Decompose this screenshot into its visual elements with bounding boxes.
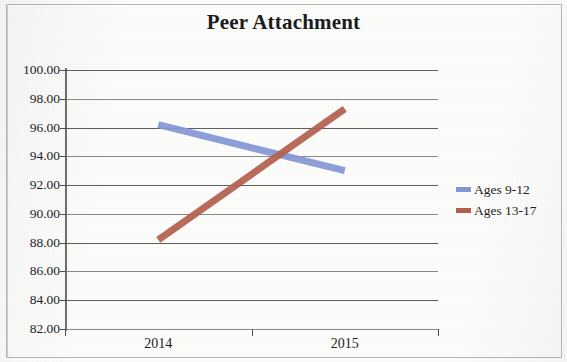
chart-title: Peer Attachment: [0, 10, 567, 35]
y-axis-tick-labels: 100.0098.0096.0094.0092.0090.0088.0086.0…: [0, 70, 60, 330]
x-axis-tick-label: 2015: [252, 336, 439, 352]
chart-figure: Peer Attachment 100.0098.0096.0094.0092.…: [0, 0, 567, 362]
x-axis-tick: [65, 329, 66, 336]
y-axis-tick-label: 82.00: [2, 322, 60, 335]
legend-item: Ages 9-12: [456, 180, 562, 199]
legend-item: Ages 13-17: [456, 201, 562, 220]
x-axis-tick-label: 2014: [65, 336, 252, 352]
legend-label: Ages 9-12: [474, 182, 530, 198]
y-axis-tick-label: 90.00: [2, 207, 60, 220]
y-axis-tick-label: 96.00: [2, 121, 60, 134]
legend-swatch-icon: [456, 187, 471, 192]
series-layer: [65, 70, 438, 329]
y-axis-tick-label: 86.00: [2, 264, 60, 277]
x-axis-tick: [252, 329, 253, 336]
y-axis-tick-label: 94.00: [2, 149, 60, 162]
y-axis-tick-label: 84.00: [2, 293, 60, 306]
y-axis-tick-label: 92.00: [2, 178, 60, 191]
y-axis-tick-label: 88.00: [2, 236, 60, 249]
y-axis-tick-label: 100.00: [2, 63, 60, 76]
x-axis-tick: [438, 329, 439, 336]
legend-swatch-icon: [456, 208, 471, 213]
y-axis-tick-label: 98.00: [2, 92, 60, 105]
chart-legend: Ages 9-12Ages 13-17: [456, 180, 562, 222]
legend-label: Ages 13-17: [474, 203, 537, 219]
plot-area: [65, 70, 438, 329]
